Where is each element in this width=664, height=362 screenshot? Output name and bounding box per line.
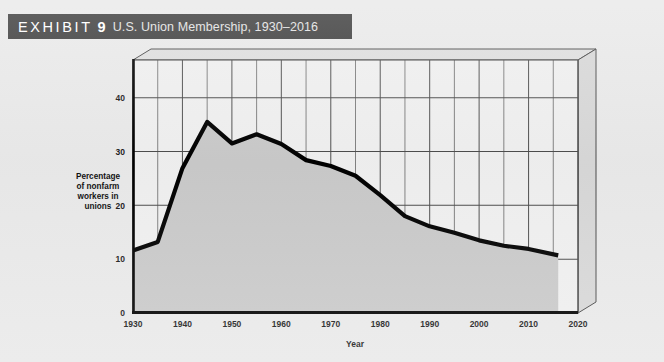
y-axis-title-line: of nonfarm [77, 182, 120, 191]
x-axis-title: Year [346, 339, 365, 349]
x-tick-label: 1930 [124, 319, 143, 329]
x-tick-label: 2000 [470, 319, 489, 329]
chart-container: 010203040 193019401950196019701980199020… [0, 42, 664, 362]
y-axis-title: Percentageof nonfarmworkers inunions [76, 172, 121, 211]
x-tick-label: 1960 [272, 319, 291, 329]
exhibit-number-label: 9 [98, 19, 106, 35]
y-axis-tick-labels: 010203040 [116, 93, 126, 318]
x-tick-label: 1990 [420, 319, 439, 329]
x-tick-label: 1950 [222, 319, 241, 329]
union-membership-line-chart: 010203040 193019401950196019701980199020… [0, 42, 664, 362]
exhibit-header-bar: EXHIBIT 9 U.S. Union Membership, 1930–20… [8, 14, 352, 39]
exhibit-title-label: U.S. Union Membership, 1930–2016 [113, 20, 318, 34]
x-axis-tick-labels: 1930194019501960197019801990200020102020 [124, 319, 588, 329]
y-tick-label: 0 [120, 308, 125, 318]
y-tick-label: 40 [116, 93, 126, 103]
x-tick-label: 1980 [371, 319, 390, 329]
exhibit-word-label: EXHIBIT [18, 19, 93, 35]
y-axis-title-line: Percentage [76, 172, 121, 181]
y-axis-title-line: workers in [77, 192, 119, 201]
x-tick-label: 1970 [321, 319, 340, 329]
x-tick-label: 1940 [173, 319, 192, 329]
exhibit-figure: EXHIBIT 9 U.S. Union Membership, 1930–20… [0, 0, 664, 362]
plot-top-face [133, 49, 596, 60]
y-tick-label: 30 [116, 147, 126, 157]
y-tick-label: 20 [116, 201, 126, 211]
y-axis-title-line: unions [85, 202, 112, 211]
x-tick-label: 2020 [569, 319, 588, 329]
y-tick-label: 10 [116, 254, 126, 264]
x-tick-label: 2010 [519, 319, 538, 329]
plot-right-face [578, 49, 596, 313]
